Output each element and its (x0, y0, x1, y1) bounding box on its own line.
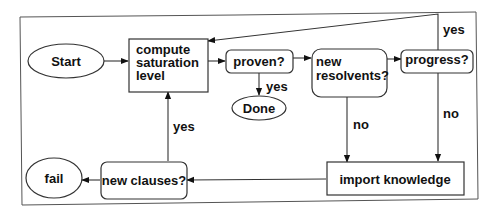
edge-label-clauses-yes: yes (173, 119, 195, 134)
node-start-label: Start (51, 54, 81, 69)
node-compute-line3: level (136, 68, 165, 83)
edge-import-clauses (187, 179, 326, 180)
edge-label-proven-yes: yes (266, 79, 288, 94)
node-new-clauses: new clauses? (101, 162, 187, 199)
node-new-resolvents-line2: resolvents? (316, 68, 389, 83)
node-proven-label: proven? (233, 54, 284, 69)
flowchart: yes yes no no yes Start compute saturati… (0, 0, 491, 213)
node-progress: progress? (401, 50, 473, 73)
node-import-knowledge-label: import knowledge (339, 172, 450, 187)
node-start: Start (28, 44, 104, 78)
node-done-label: Done (243, 101, 276, 116)
edge-label-progress-no: no (443, 106, 459, 121)
node-done: Done (232, 96, 286, 120)
node-new-resolvents: new resolvents? (312, 49, 389, 97)
edge-label-progress-yes: yes (443, 22, 465, 37)
node-import-knowledge: import knowledge (327, 162, 464, 195)
node-new-clauses-label: new clauses? (102, 173, 187, 188)
node-new-resolvents-line1: new (316, 54, 342, 69)
node-fail-label: fail (45, 171, 64, 186)
edge-progress-compute (208, 14, 438, 50)
node-fail: fail (26, 158, 82, 198)
node-compute: compute saturation level (129, 39, 208, 92)
edge-label-resolvents-no: no (353, 117, 369, 132)
node-proven: proven? (226, 50, 293, 73)
node-progress-label: progress? (405, 52, 469, 67)
